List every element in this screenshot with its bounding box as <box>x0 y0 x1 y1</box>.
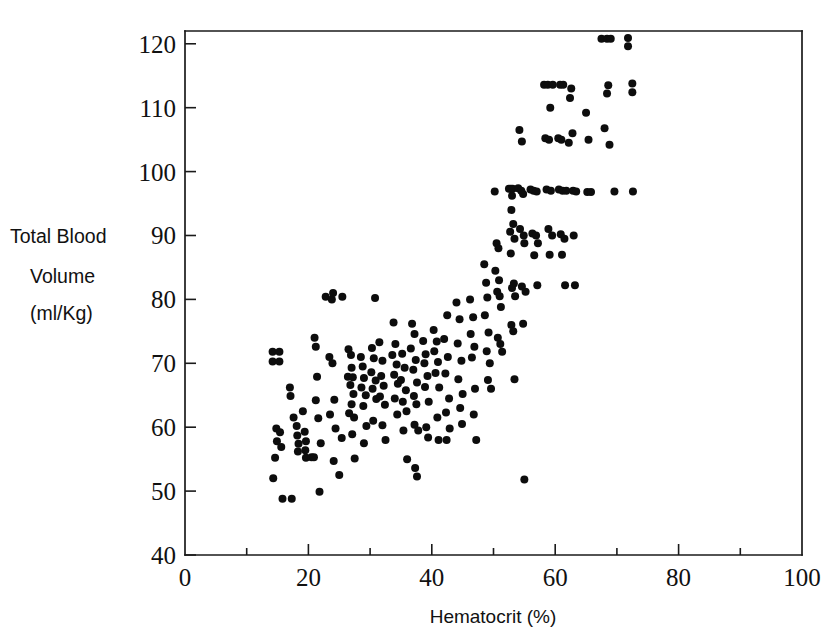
data-point <box>508 192 516 200</box>
data-point <box>445 394 453 402</box>
data-point <box>290 414 298 422</box>
y-tick-label-50: 50 <box>151 478 176 505</box>
data-point <box>458 420 466 428</box>
data-point <box>471 385 479 393</box>
data-point <box>454 339 462 347</box>
chart-canvas: 405060708090100110120 020406080100 Total… <box>0 0 833 643</box>
data-point <box>518 138 526 146</box>
data-point <box>397 376 405 384</box>
data-point <box>506 228 514 236</box>
data-point <box>357 384 365 392</box>
data-point <box>348 400 356 408</box>
data-point <box>587 188 595 196</box>
data-point <box>316 488 324 496</box>
data-point <box>572 187 580 195</box>
data-point <box>435 384 443 392</box>
data-point <box>520 239 528 247</box>
data-point <box>571 281 579 289</box>
data-point <box>629 187 637 195</box>
data-point <box>585 136 593 144</box>
data-point <box>628 79 636 87</box>
data-point <box>276 428 284 436</box>
data-point <box>530 251 538 259</box>
data-point <box>432 369 440 377</box>
data-point <box>313 373 321 381</box>
data-point <box>507 206 515 214</box>
data-point <box>359 402 367 410</box>
data-point <box>484 376 492 384</box>
data-point <box>483 347 491 355</box>
data-point <box>486 359 494 367</box>
data-point <box>403 407 411 415</box>
x-tick-label-40: 40 <box>419 564 444 591</box>
data-point <box>546 104 554 112</box>
x-tick-label-60: 60 <box>543 564 568 591</box>
data-point <box>624 42 632 50</box>
data-point <box>603 90 611 98</box>
data-point <box>423 372 431 380</box>
x-tick-label-0: 0 <box>179 564 192 591</box>
data-point <box>424 433 432 441</box>
data-point <box>456 404 464 412</box>
data-point <box>312 396 320 404</box>
data-point <box>391 340 399 348</box>
data-point <box>335 471 343 479</box>
data-point <box>468 354 476 362</box>
data-point <box>549 81 557 89</box>
data-point <box>278 495 286 503</box>
data-point <box>328 359 336 367</box>
data-point <box>567 85 575 93</box>
scatter-plot-figure: 405060708090100110120 020406080100 Total… <box>0 0 833 643</box>
data-point <box>508 284 516 292</box>
y-tick-label-100: 100 <box>139 159 177 186</box>
data-point <box>402 386 410 394</box>
data-point <box>271 454 279 462</box>
data-point <box>472 436 480 444</box>
data-point <box>310 453 318 461</box>
data-point <box>360 439 368 447</box>
data-point <box>413 378 421 386</box>
y-tick-label-40: 40 <box>151 542 176 569</box>
data-point <box>299 407 307 415</box>
data-point <box>497 303 505 311</box>
data-point <box>515 126 523 134</box>
data-point <box>496 292 504 300</box>
data-point <box>520 476 528 484</box>
y-tick-label-90: 90 <box>151 222 176 249</box>
data-point <box>470 343 478 351</box>
data-point <box>314 414 322 422</box>
data-point <box>444 353 452 361</box>
data-point <box>391 394 399 402</box>
data-point <box>311 334 319 342</box>
data-point <box>348 364 356 372</box>
data-point <box>332 424 340 432</box>
data-point <box>349 390 357 398</box>
data-point <box>454 375 462 383</box>
data-point <box>378 421 386 429</box>
data-point <box>393 410 401 418</box>
data-point <box>351 455 359 463</box>
data-point <box>425 398 433 406</box>
data-point <box>519 320 527 328</box>
data-point <box>419 337 427 345</box>
data-point <box>412 356 420 364</box>
data-point <box>407 345 415 353</box>
data-point <box>288 495 296 503</box>
data-point <box>422 350 430 358</box>
data-point <box>369 417 377 425</box>
data-point <box>369 385 377 393</box>
data-point <box>610 187 618 195</box>
data-point <box>398 350 406 358</box>
data-point <box>496 340 504 348</box>
data-point <box>287 392 295 400</box>
data-point <box>362 391 370 399</box>
data-point <box>459 390 467 398</box>
data-point <box>377 372 385 380</box>
data-point <box>495 276 503 284</box>
data-point <box>582 109 590 117</box>
data-point <box>509 220 517 228</box>
data-point <box>434 358 442 366</box>
data-point <box>604 81 612 89</box>
figure-background <box>0 0 833 643</box>
data-point <box>435 436 443 444</box>
